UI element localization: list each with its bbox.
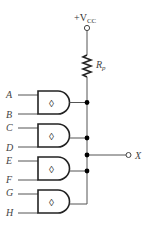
input-label-a: A xyxy=(5,89,13,100)
input-label-d: D xyxy=(5,142,14,153)
vcc-label: +VCC xyxy=(74,12,97,25)
open-collector-symbol: ◊ xyxy=(49,98,54,109)
open-collector-symbol: ◊ xyxy=(49,131,54,142)
output-label: X xyxy=(134,150,142,161)
vcc-terminal xyxy=(84,25,89,30)
input-label-e: E xyxy=(5,155,12,166)
gate-1: A B ◊ xyxy=(5,89,89,120)
junction-dot xyxy=(85,136,90,141)
output-terminal xyxy=(126,153,131,158)
input-label-b: B xyxy=(6,109,12,120)
open-collector-symbol: ◊ xyxy=(49,197,54,208)
gate-3: E F ◊ xyxy=(5,155,89,185)
input-label-f: F xyxy=(5,174,13,185)
junction-dot xyxy=(85,169,90,174)
junction-dot xyxy=(85,100,90,105)
pullup-resistor xyxy=(83,55,91,77)
input-label-g: G xyxy=(6,187,13,198)
wired-and-circuit: +VCC Rp X A B ◊ C D ◊ E F ◊ xyxy=(0,0,154,232)
gate-2: C D ◊ xyxy=(5,122,89,153)
gate-4: G H ◊ xyxy=(5,187,87,218)
resistor-label: Rp xyxy=(95,59,106,72)
input-label-c: C xyxy=(6,122,13,133)
open-collector-symbol: ◊ xyxy=(49,164,54,175)
junction-dot xyxy=(85,153,90,158)
input-label-h: H xyxy=(5,207,14,218)
